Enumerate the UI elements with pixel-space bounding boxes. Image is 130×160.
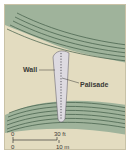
scale-bottom-start: 0 [11,144,14,150]
scale-top-start: 0 [11,131,14,137]
scale-bottom-end: 10 m [56,144,69,150]
map-panel: Wall Palisade 0 30 ft 0 10 m [4,4,126,150]
wall-label: Wall [23,66,37,73]
scale-bar [13,137,59,143]
terrain-map [5,5,126,150]
scale-top-end: 30 ft [54,131,66,137]
palisade-label: Palisade [80,81,108,88]
